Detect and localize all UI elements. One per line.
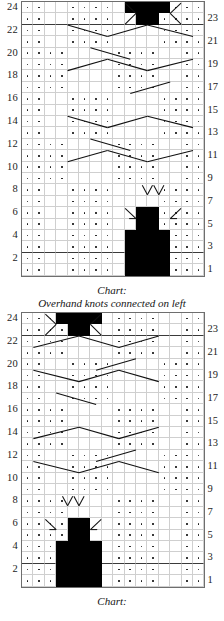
stitch-cell[interactable]: [125, 184, 136, 195]
stitch-cell-purl[interactable]: [22, 93, 33, 104]
stitch-cell-purl[interactable]: [33, 461, 44, 472]
stitch-cell-purl[interactable]: [56, 173, 67, 184]
stitch-cell-purl[interactable]: [45, 59, 56, 70]
stitch-cell-filled[interactable]: [147, 2, 158, 13]
stitch-cell-purl[interactable]: [147, 564, 158, 575]
stitch-cell-filled[interactable]: [79, 518, 90, 529]
stitch-cell[interactable]: [90, 324, 101, 335]
stitch-cell-purl[interactable]: [56, 347, 67, 358]
stitch-cell[interactable]: [113, 2, 124, 13]
stitch-cell-purl[interactable]: [102, 381, 113, 392]
stitch-cell-purl[interactable]: [90, 116, 101, 127]
stitch-cell-purl[interactable]: [193, 313, 204, 324]
stitch-cell-purl[interactable]: [113, 82, 124, 93]
stitch-cell-purl[interactable]: [68, 196, 79, 207]
stitch-cell-filled[interactable]: [56, 552, 67, 563]
stitch-cell-purl[interactable]: [125, 518, 136, 529]
stitch-cell-filled[interactable]: [125, 253, 136, 264]
stitch-cell-purl[interactable]: [170, 127, 181, 138]
stitch-cell[interactable]: [45, 116, 56, 127]
stitch-cell-purl[interactable]: [193, 184, 204, 195]
stitch-cell-filled[interactable]: [159, 2, 170, 13]
stitch-cell[interactable]: [159, 495, 170, 506]
stitch-cell-purl[interactable]: [33, 48, 44, 59]
stitch-cell-purl[interactable]: [125, 575, 136, 586]
stitch-cell[interactable]: [68, 347, 79, 358]
stitch-cell-purl[interactable]: [159, 184, 170, 195]
stitch-cell[interactable]: [45, 127, 56, 138]
stitch-cell[interactable]: [68, 48, 79, 59]
stitch-cell-purl[interactable]: [182, 25, 193, 36]
stitch-cell-purl[interactable]: [79, 461, 90, 472]
stitch-cell-purl[interactable]: [170, 230, 181, 241]
stitch-cell-purl[interactable]: [45, 552, 56, 563]
stitch-cell[interactable]: [68, 416, 79, 427]
stitch-cell-purl[interactable]: [33, 93, 44, 104]
stitch-cell[interactable]: [136, 36, 147, 47]
stitch-cell[interactable]: [102, 48, 113, 59]
stitch-cell[interactable]: [159, 313, 170, 324]
stitch-cell-filled[interactable]: [159, 241, 170, 252]
stitch-cell[interactable]: [113, 461, 124, 472]
stitch-cell-purl[interactable]: [159, 473, 170, 484]
stitch-cell[interactable]: [170, 416, 181, 427]
stitch-cell[interactable]: [147, 473, 158, 484]
stitch-cell-purl[interactable]: [193, 162, 204, 173]
stitch-cell-purl[interactable]: [45, 541, 56, 552]
stitch-cell[interactable]: [147, 484, 158, 495]
stitch-cell-filled[interactable]: [159, 264, 170, 275]
stitch-cell[interactable]: [90, 150, 101, 161]
stitch-cell-purl[interactable]: [45, 139, 56, 150]
stitch-cell-purl[interactable]: [68, 25, 79, 36]
stitch-cell[interactable]: [125, 450, 136, 461]
stitch-cell-filled[interactable]: [56, 575, 67, 586]
stitch-cell-purl[interactable]: [56, 507, 67, 518]
stitch-cell-purl[interactable]: [193, 541, 204, 552]
stitch-cell[interactable]: [159, 427, 170, 438]
stitch-cell-purl[interactable]: [22, 336, 33, 347]
stitch-cell[interactable]: [170, 575, 181, 586]
stitch-cell[interactable]: [136, 381, 147, 392]
stitch-cell[interactable]: [102, 541, 113, 552]
stitch-cell[interactable]: [102, 336, 113, 347]
stitch-cell-purl[interactable]: [182, 495, 193, 506]
stitch-cell-purl[interactable]: [170, 370, 181, 381]
stitch-cell-purl[interactable]: [79, 25, 90, 36]
stitch-cell-purl[interactable]: [182, 324, 193, 335]
stitch-cell-purl[interactable]: [136, 438, 147, 449]
stitch-cell-purl[interactable]: [136, 404, 147, 415]
stitch-cell[interactable]: [136, 370, 147, 381]
stitch-cell[interactable]: [102, 495, 113, 506]
stitch-cell-purl[interactable]: [193, 139, 204, 150]
stitch-cell-purl[interactable]: [159, 207, 170, 218]
stitch-cell-filled[interactable]: [68, 552, 79, 563]
stitch-cell[interactable]: [45, 219, 56, 230]
stitch-cell-filled[interactable]: [90, 313, 101, 324]
stitch-cell-purl[interactable]: [33, 230, 44, 241]
stitch-cell[interactable]: [45, 93, 56, 104]
stitch-cell-purl[interactable]: [102, 393, 113, 404]
stitch-cell[interactable]: [102, 173, 113, 184]
stitch-cell-purl[interactable]: [170, 196, 181, 207]
stitch-cell[interactable]: [159, 404, 170, 415]
stitch-cell-purl[interactable]: [33, 36, 44, 47]
stitch-cell[interactable]: [113, 381, 124, 392]
stitch-cell-purl[interactable]: [33, 313, 44, 324]
stitch-cell[interactable]: [125, 105, 136, 116]
stitch-cell-purl[interactable]: [22, 2, 33, 13]
stitch-cell-purl[interactable]: [159, 36, 170, 47]
stitch-cell-purl[interactable]: [45, 162, 56, 173]
stitch-cell-purl[interactable]: [79, 184, 90, 195]
stitch-cell-purl[interactable]: [102, 370, 113, 381]
stitch-cell[interactable]: [170, 162, 181, 173]
stitch-cell-purl[interactable]: [33, 427, 44, 438]
stitch-cell-purl[interactable]: [182, 416, 193, 427]
stitch-cell-purl[interactable]: [68, 116, 79, 127]
stitch-cell-purl[interactable]: [22, 530, 33, 541]
stitch-cell-purl[interactable]: [113, 507, 124, 518]
stitch-cell-purl[interactable]: [79, 264, 90, 275]
stitch-cell-purl[interactable]: [102, 2, 113, 13]
stitch-cell-filled[interactable]: [136, 2, 147, 13]
stitch-cell-purl[interactable]: [159, 127, 170, 138]
stitch-cell-purl[interactable]: [182, 2, 193, 13]
